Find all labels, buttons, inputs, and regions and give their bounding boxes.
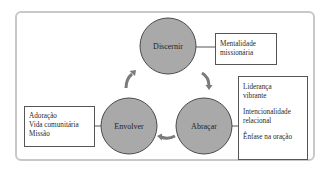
box-text: Liderança <box>243 83 303 92</box>
node-label-envolver: Envolver <box>114 122 144 131</box>
box-text: Mentalidade <box>220 40 272 49</box>
arrow-discernir-to-abracar-icon <box>202 73 213 90</box>
node-label-discernir: Discernir <box>153 42 183 51</box>
arrow-envolver-to-discernir-icon <box>126 70 136 88</box>
box-text: Vida comunitária <box>29 121 90 130</box>
arrow-abracar-to-envolver-icon <box>157 134 175 141</box>
box-text: vibrante <box>243 92 303 101</box>
box-text: Missão <box>29 130 90 139</box>
box-discernir-details: Mentalidade missionária <box>215 33 277 65</box>
box-text: Intencionalidade <box>243 108 303 117</box>
box-envolver-details: Adoração Vida comunitária Missão <box>24 106 95 147</box>
box-text: Ênfase na oração <box>243 133 303 142</box>
box-text: Adoração <box>29 112 90 121</box>
box-text: missionária <box>220 49 272 58</box>
node-label-abracar: Abraçar <box>191 122 217 131</box>
box-text: relacional <box>243 117 303 126</box>
box-abracar-details: Liderança vibrante Intencionalidade rela… <box>238 76 308 160</box>
